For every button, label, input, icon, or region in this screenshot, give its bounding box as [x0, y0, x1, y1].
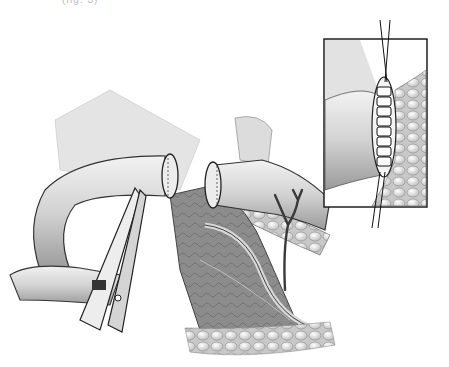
- staple-ring-right: [205, 162, 221, 208]
- staple-ring-left: [162, 154, 178, 198]
- surgical-illustration: [0, 0, 449, 367]
- bowel-loop-left: [34, 156, 165, 270]
- magnified-inset: [324, 20, 427, 228]
- grasping-forceps: [80, 188, 146, 332]
